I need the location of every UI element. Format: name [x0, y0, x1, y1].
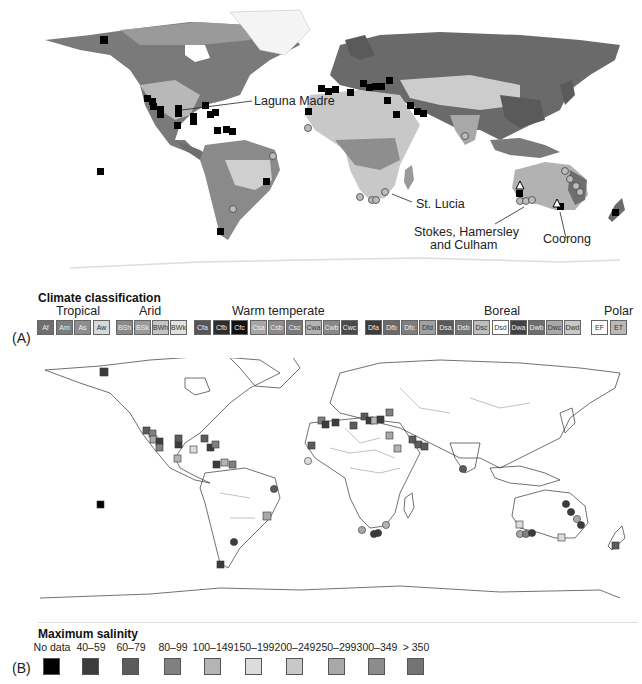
legend-box-bsk: BSk: [134, 320, 151, 335]
southeast-asia: [490, 138, 560, 158]
antarctica-outline: [40, 586, 620, 598]
legend-box-af: Af: [37, 320, 54, 335]
climate-map: [0, 0, 642, 300]
legend-group-boreal: Boreal: [484, 304, 520, 318]
climate-legend-title: Climate classification: [38, 291, 161, 305]
legend-box-am: Am: [56, 320, 73, 335]
eurasia-outline: [330, 360, 620, 468]
legend-box-dsb: Dsb: [455, 320, 472, 335]
panel-a-tag: (A): [12, 330, 31, 346]
japan-outline: [560, 408, 575, 433]
legend-box-dwd: Dwd: [564, 320, 581, 335]
salinity-legend-title: Maximum salinity: [38, 627, 138, 641]
annotation-stokes: Stokes, Hamersley: [414, 225, 519, 239]
salinity-box-300-349: [368, 658, 385, 675]
legend-box-dfb: Dfb: [383, 320, 400, 335]
legend-box-cfa: Cfa: [194, 320, 211, 335]
legend-box-csb: Csb: [268, 320, 285, 335]
legend-box-dfd: Dfd: [419, 320, 436, 335]
salinity-box-100-149: [204, 658, 221, 675]
panel-divider: [38, 622, 638, 623]
country-borders: [220, 388, 530, 518]
salinity-squares: [97, 368, 619, 568]
legend-box-dwa: Dwa: [510, 320, 527, 335]
legend-box-bsh: BSh: [116, 320, 133, 335]
salinity-circles: [230, 457, 584, 545]
annotation-coorong: Coorong: [543, 232, 591, 246]
legend-box-csa: Csa: [250, 320, 267, 335]
legend-box-ef: EF: [591, 320, 608, 335]
salinity-box-250-299: [328, 658, 345, 675]
legend-box-aw: Aw: [93, 320, 110, 335]
southeast-asia-outline: [490, 466, 560, 486]
legend-box-dsa: Dsa: [437, 320, 454, 335]
legend-box-bwh: BWh: [152, 320, 169, 335]
salinity-map: [0, 358, 642, 620]
greenland-outline: [225, 358, 300, 388]
legend-box-cwc: Cwc: [341, 320, 358, 335]
legend-box-as: As: [74, 320, 91, 335]
salinity-box-200-249: [286, 658, 303, 675]
salinity-box-150-199: [245, 658, 262, 675]
south-america-landmass: [200, 140, 280, 240]
north-america-outline: [45, 358, 280, 483]
annotation-culham: and Culham: [430, 238, 497, 252]
panel-b-tag: (B): [12, 660, 31, 676]
india: [450, 115, 480, 145]
legend-box-dfc: Dfc: [401, 320, 418, 335]
salinity-box-40-59: [82, 658, 99, 675]
legend-box-dwc: Dwc: [546, 320, 563, 335]
salinity-map-panel: [0, 358, 642, 620]
madagascar-outline: [404, 493, 414, 518]
legend-box-dwb: Dwb: [528, 320, 545, 335]
legend-group-warm-temperate: Warm temperate: [232, 304, 325, 318]
legend-box-csc: Csc: [286, 320, 303, 335]
africa-outline: [305, 418, 420, 528]
hudson-bay-outline: [185, 378, 210, 395]
legend-box-cwb: Cwb: [323, 320, 340, 335]
antarctica-edge: [70, 258, 620, 268]
legend-box-dsd: Dsd: [492, 320, 509, 335]
legend-group-polar: Polar: [604, 304, 633, 318]
annotation-laguna-madre: Laguna Madre: [254, 94, 335, 108]
legend-box-dfa: Dfa: [365, 320, 382, 335]
legend-group-arid: Arid: [139, 304, 161, 318]
legend-box-dsc: Dsc: [473, 320, 490, 335]
legend-box-bwk: BWk: [170, 320, 187, 335]
legend-group-tropical: Tropical: [56, 304, 100, 318]
legend-box-et: ET: [610, 320, 627, 335]
salinity-box-nodata: [43, 658, 60, 675]
salinity-box-80-99: [164, 658, 181, 675]
salinity-box-60-79: [122, 658, 139, 675]
salinity-box-over-350: [407, 658, 424, 675]
annotation-st-lucia: St. Lucia: [416, 197, 465, 211]
legend-box-cfb: Cfb: [213, 320, 230, 335]
madagascar: [404, 165, 414, 190]
legend-box-cfc: Cfc: [231, 320, 248, 335]
climate-map-panel: Laguna Madre St. Lucia Stokes, Hamersley…: [0, 0, 642, 300]
salinity-label-over-350: > 350: [386, 641, 446, 653]
australia-outline: [512, 490, 588, 538]
legend-box-cwa: Cwa: [305, 320, 322, 335]
